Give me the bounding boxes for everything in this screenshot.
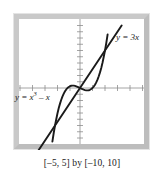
curve-label-cubic-operator: – bbox=[37, 92, 46, 102]
curve-label-cubic-tail: x bbox=[46, 92, 50, 102]
curve-label-cubic: y = x3 – x bbox=[15, 93, 50, 102]
curve-label-line-lhs: y = 3 bbox=[116, 32, 135, 42]
graph-figure: y = 3x y = x3 – x [–5, 5] by [–10, 10] bbox=[0, 0, 164, 180]
curve-label-line-var: x bbox=[135, 32, 139, 42]
viewing-window-caption: [–5, 5] by [–10, 10] bbox=[0, 158, 164, 168]
curve-label-cubic-lhs: y = bbox=[15, 92, 30, 102]
curve-label-line: y = 3x bbox=[116, 33, 139, 42]
